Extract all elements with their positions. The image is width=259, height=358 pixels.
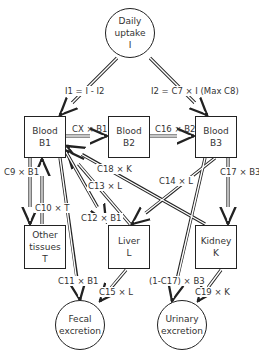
uptake-line3: I [129,39,132,51]
flow-label-c19: C19 × K [194,287,231,297]
tissues-line2: tissues [29,241,60,253]
b2-line2: B2 [123,137,135,149]
flow-label-c17: C17 × B3 [219,167,259,177]
fecal-line2: excretion [59,325,101,337]
blood-b3-node: Blood B3 [195,116,237,158]
flow-label-c9: C9 × B1 [3,167,40,177]
liver-line1: Liver [118,235,140,247]
flow-label-c13: C13 × L [87,181,123,191]
flow-label-c12: C12 × B1 [80,213,123,223]
b1-line1: Blood [32,125,57,137]
uptake-line2: uptake [115,27,146,39]
kidney-line2: K [213,247,219,259]
liver-node: Liver L [108,225,150,269]
flow-label-c10: C10 × T [34,203,70,213]
other-tissues-node: Other tissues T [24,225,66,269]
tissues-line3: T [42,253,48,265]
flow-label-c15: C15 × L [98,287,134,297]
kidney-line1: Kidney [201,235,232,247]
liver-line2: L [126,247,131,259]
b1-line2: B1 [39,137,51,149]
flow-label-i1: I1 = I - I2 [64,86,105,96]
flow-label-c18: C18 × K [96,164,133,174]
fecal-line1: Fecal [68,313,91,325]
uptake-line1: Daily [119,15,142,27]
tissues-line1: Other [32,229,58,241]
flow-label-urinary: (1-C17) × B3 [148,276,206,286]
flow-label-c11: C11 × B1 [57,276,100,286]
b2-line1: Blood [116,125,141,137]
urinary-line2: excretion [161,325,203,337]
flow-label-cx: CX × B1 [71,124,109,134]
flow-label-i2: I2 = C7 × I (Max C8) [150,86,240,96]
b3-line1: Blood [203,125,228,137]
fecal-excretion-node: Fecal excretion [55,300,105,350]
blood-b2-node: Blood B2 [108,116,150,158]
urinary-line1: Urinary [165,313,198,325]
flow-label-c14: C14 × L [158,176,194,186]
b3-line2: B3 [210,137,222,149]
daily-uptake-node: Daily uptake I [105,8,155,58]
urinary-excretion-node: Urinary excretion [157,300,207,350]
flow-label-c16: C16 × B2 [154,124,197,134]
blood-b1-node: Blood B1 [24,116,66,158]
kidney-node: Kidney K [195,225,237,269]
